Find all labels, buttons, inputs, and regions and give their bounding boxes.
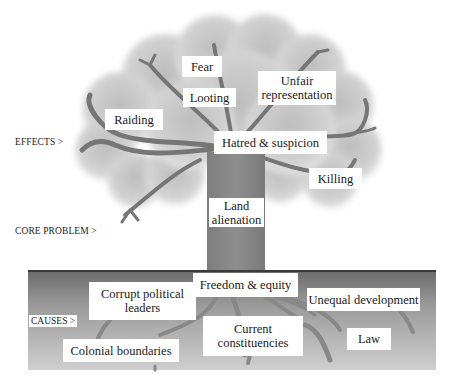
cause-unequal-development-text: Unequal development — [308, 293, 418, 307]
cause-corrupt-leaders-line2: leaders — [125, 301, 160, 315]
cause-freedom-equity-box: Freedom & equity — [193, 273, 298, 297]
cause-freedom-equity-text: Freedom & equity — [200, 278, 292, 292]
causes-label: CAUSES > — [29, 315, 77, 327]
effect-unfair-representation-box: Unfair representation — [258, 71, 336, 105]
cause-law-box: Law — [347, 328, 391, 350]
effect-raiding-box: Raiding — [105, 109, 163, 130]
problem-tree-diagram: EFFECTS > CORE PROBLEM > CAUSES > Fear L… — [0, 0, 449, 385]
cause-current-constituencies-line1: Current — [234, 322, 272, 336]
cause-unequal-development-box: Unequal development — [307, 288, 420, 311]
effects-label: EFFECTS > — [15, 137, 63, 147]
effect-looting-box: Looting — [183, 88, 236, 107]
cause-corrupt-leaders-box: Corrupt political leaders — [89, 282, 196, 320]
effect-hatred-suspicion-box: Hatred & suspicion — [214, 131, 327, 154]
effect-fear-text: Fear — [191, 60, 213, 74]
cause-current-constituencies-line2: constituencies — [218, 336, 289, 350]
cause-current-constituencies-box: Current constituencies — [203, 316, 303, 356]
cause-colonial-boundaries-text: Colonial boundaries — [70, 344, 171, 358]
effect-raiding-text: Raiding — [114, 113, 154, 127]
cause-corrupt-leaders-line1: Corrupt political — [101, 287, 184, 301]
core-problem-label: CORE PROBLEM > — [15, 226, 97, 236]
effect-looting-text: Looting — [190, 91, 230, 105]
core-land-alienation-line1: Land — [224, 199, 250, 213]
core-land-alienation-line2: alienation — [212, 213, 261, 227]
effect-killing-text: Killing — [318, 172, 353, 186]
core-land-alienation-box: Land alienation — [209, 198, 264, 227]
effect-killing-box: Killing — [309, 168, 362, 189]
effect-unfair-representation-line2: representation — [262, 88, 333, 102]
cause-colonial-boundaries-box: Colonial boundaries — [63, 339, 179, 362]
cause-law-text: Law — [358, 332, 380, 346]
effect-hatred-suspicion-text: Hatred & suspicion — [222, 136, 319, 150]
effect-unfair-representation-line1: Unfair — [281, 74, 314, 88]
effect-fear-box: Fear — [182, 56, 222, 77]
